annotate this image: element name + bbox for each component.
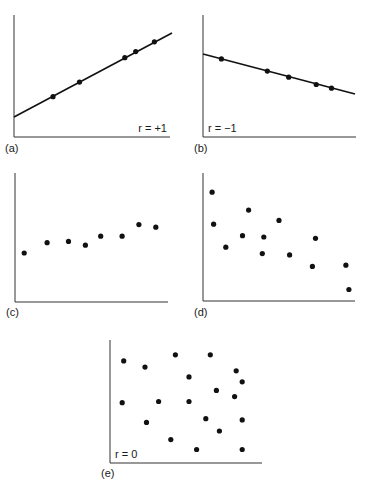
data-point (98, 234, 103, 239)
axes (203, 15, 356, 137)
data-point (219, 56, 224, 61)
data-point (310, 264, 315, 269)
data-point (22, 250, 27, 255)
data-point (121, 358, 126, 363)
data-point (240, 379, 245, 384)
panel-label: (d) (194, 306, 207, 318)
panel-d: (d) (194, 173, 355, 318)
data-point (83, 243, 88, 248)
data-point (50, 94, 55, 99)
data-point (313, 236, 318, 241)
data-point (223, 245, 228, 250)
panel-b: r = −1(b) (194, 15, 356, 154)
panel-label: (b) (194, 142, 207, 154)
correlation-annotation: r = 0 (115, 448, 137, 460)
data-point (153, 225, 158, 230)
data-point (261, 234, 266, 239)
data-point (136, 222, 141, 227)
data-point (186, 374, 191, 379)
data-point (217, 428, 222, 433)
data-point (194, 447, 199, 452)
panel-c: (c) (6, 173, 168, 318)
panel-e: r = 0(e) (101, 340, 262, 479)
data-point (152, 39, 157, 44)
data-point (286, 75, 291, 80)
data-point (186, 399, 191, 404)
data-point (142, 365, 147, 370)
data-point (240, 233, 245, 238)
data-point (77, 80, 82, 85)
panel-a: r = +1(a) (5, 15, 172, 154)
data-point (346, 287, 351, 292)
panel-label: (c) (6, 306, 19, 318)
data-point (203, 416, 208, 421)
panel-label: (e) (101, 467, 114, 479)
data-point (66, 239, 71, 244)
data-point (276, 218, 281, 223)
data-point (120, 234, 125, 239)
axes (203, 173, 355, 301)
correlation-annotation: r = −1 (208, 122, 237, 134)
data-point (265, 69, 270, 74)
data-point (211, 222, 216, 227)
data-point (208, 352, 213, 357)
axes (15, 173, 168, 302)
data-point (214, 388, 219, 393)
data-point (120, 400, 125, 405)
data-point (45, 240, 50, 245)
data-point (287, 252, 292, 257)
data-point (232, 394, 237, 399)
correlation-annotation: r = +1 (138, 122, 167, 134)
data-point (133, 49, 138, 54)
data-point (173, 352, 178, 357)
data-point (246, 208, 251, 213)
fit-line (14, 33, 172, 117)
data-point (314, 82, 319, 87)
data-point (240, 447, 245, 452)
data-point (240, 417, 245, 422)
figure: r = +1(a)r = −1(b)(c)(d)r = 0(e) (0, 0, 367, 491)
axes (110, 340, 262, 463)
panel-label: (a) (5, 142, 18, 154)
data-point (234, 368, 239, 373)
data-point (144, 420, 149, 425)
data-point (122, 55, 127, 60)
data-point (168, 437, 173, 442)
data-point (210, 190, 215, 195)
data-point (329, 86, 334, 91)
data-point (343, 263, 348, 268)
data-point (156, 399, 161, 404)
data-point (260, 251, 265, 256)
